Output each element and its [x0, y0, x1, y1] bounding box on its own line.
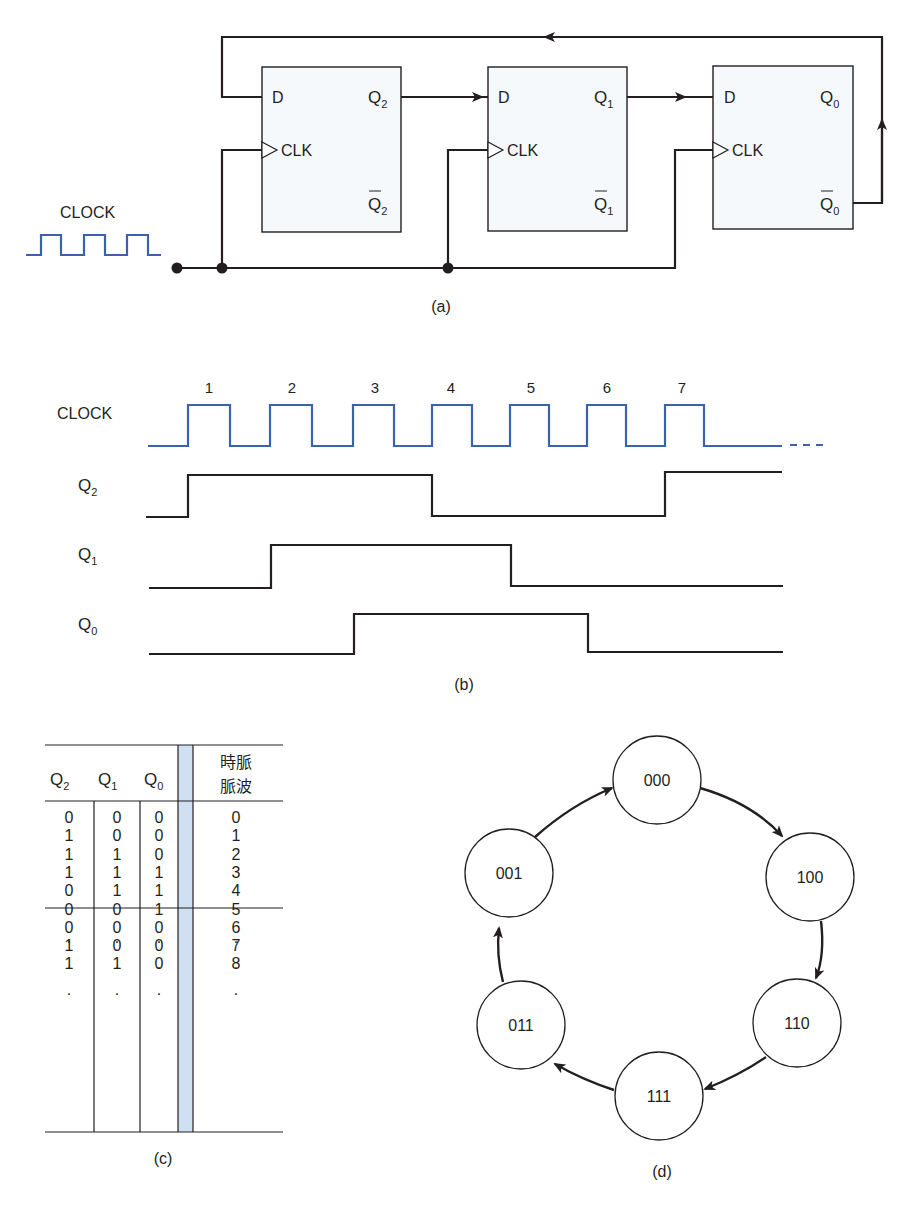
waveform-q2 [146, 472, 782, 517]
table-row: .... [67, 955, 238, 972]
circuit-diagram: CLOCK D CLK Q2 Q2 D [26, 37, 882, 315]
clk-wire-ff1 [448, 150, 488, 268]
table-row: 0015 [65, 901, 241, 918]
pulse-number: 2 [288, 379, 296, 396]
header-q1: Q1 [98, 770, 117, 792]
table-cell: 0 [65, 809, 74, 826]
clk-pin-label: CLK [732, 142, 763, 159]
table-cell: . [67, 929, 71, 946]
table-cell: 2 [232, 846, 241, 863]
pulse-number: 4 [447, 379, 455, 396]
state-label: 110 [784, 1015, 810, 1032]
header-pulse-line2: 脈波 [220, 778, 252, 795]
table-cell: 1 [232, 827, 241, 844]
state-label: 011 [508, 1017, 534, 1034]
table-cell: 0 [65, 882, 74, 899]
table-cell: . [234, 929, 238, 946]
signal-label-clock: CLOCK [57, 405, 112, 422]
table-cell: 0 [113, 901, 122, 918]
state-node-001: 001 [465, 829, 553, 917]
table-cell: 1 [155, 901, 164, 918]
table-cell: . [157, 929, 161, 946]
figure-canvas: CLOCK D CLK Q2 Q2 D [0, 0, 906, 1210]
clock-label: CLOCK [60, 204, 115, 221]
table-cell: 0 [232, 809, 241, 826]
transition-arrow-icon [498, 928, 503, 982]
table-cell: . [115, 955, 119, 972]
pulse-numbers: 1 2 3 4 5 6 7 [205, 379, 686, 396]
table-row: 1108 [65, 955, 241, 972]
table-cell: 4 [232, 882, 241, 899]
table-row: 0114 [65, 882, 241, 899]
state-node-000: 000 [613, 736, 701, 824]
header-q0: Q0 [144, 770, 163, 792]
signal-label-q0: Q0 [78, 615, 97, 637]
pulse-number: 7 [678, 379, 686, 396]
flipflop-q0: D CLK Q0 Q0 [713, 66, 853, 229]
clock-input-node [172, 263, 183, 274]
transition-arrow-icon [555, 1064, 614, 1090]
table-row: .... [67, 929, 238, 946]
table-cell: . [234, 981, 238, 998]
header-pulse-line1: 時脈 [220, 754, 252, 771]
table-cell: . [115, 981, 119, 998]
pulse-number: 5 [527, 379, 535, 396]
d-pin-label: D [498, 89, 510, 106]
table-cell: 1 [65, 827, 74, 844]
table-cell: . [67, 955, 71, 972]
pulse-number: 6 [603, 379, 611, 396]
state-diagram: 000 100 110 111 011 001 (d) [465, 736, 854, 1180]
clk-wire-ff2 [222, 150, 262, 268]
table-cell: 1 [155, 882, 164, 899]
table-cell: . [67, 981, 71, 998]
table-cell: 1 [155, 864, 164, 881]
table-cell: 3 [232, 864, 241, 881]
waveform-q1 [149, 545, 783, 588]
clock-waveform-icon [26, 235, 161, 255]
pulse-number: 3 [371, 379, 379, 396]
table-row: 1102 [65, 846, 241, 863]
flipflop-q2: D CLK Q2 Q2 [262, 67, 401, 232]
caption-a: (a) [431, 298, 451, 315]
clk-pin-label: CLK [507, 142, 538, 159]
caption-c: (c) [154, 1150, 173, 1167]
timing-diagram: CLOCK Q2 Q1 Q0 1 2 3 4 5 6 7 (b) [57, 379, 828, 693]
junction-node [443, 263, 454, 274]
flipflop-q1: D CLK Q1 Q1 [488, 67, 627, 231]
state-node-100: 100 [766, 833, 854, 921]
junction-node [217, 263, 228, 274]
caption-d: (d) [652, 1163, 672, 1180]
state-node-111: 111 [615, 1052, 703, 1140]
state-label: 001 [496, 865, 523, 882]
table-cell: 0 [155, 809, 164, 826]
table-cell: 1 [113, 864, 122, 881]
state-node-011: 011 [477, 981, 565, 1069]
caption-b: (b) [454, 676, 474, 693]
table-cell: 1 [113, 882, 122, 899]
table-row: 1007 [65, 937, 241, 954]
table-cell: . [234, 955, 238, 972]
pulse-number: 1 [205, 379, 213, 396]
header-q2: Q2 [50, 770, 69, 792]
table-row: 0000 [65, 809, 241, 826]
transition-arrow-icon [816, 921, 822, 978]
state-label: 100 [797, 869, 824, 886]
table-cell: 0 [155, 827, 164, 844]
waveform-q0 [149, 614, 783, 654]
table-row: 0006 [65, 919, 241, 936]
table-cell: . [157, 955, 161, 972]
signal-label-q2: Q2 [78, 476, 97, 498]
transition-arrow-icon [705, 1057, 766, 1089]
table-cell: 0 [65, 901, 74, 918]
d-pin-label: D [724, 89, 736, 106]
separator-band [178, 745, 193, 1132]
table-cell: 0 [113, 827, 122, 844]
table-cell: 1 [65, 846, 74, 863]
transition-arrow-icon [700, 788, 782, 836]
state-node-110: 110 [753, 979, 841, 1067]
table-cell: 1 [113, 846, 122, 863]
clock-waveform [148, 405, 782, 446]
table-row: 1001 [65, 827, 241, 844]
clock-bus-wire [177, 150, 713, 268]
table-body: 000010011102111301140015000610071108....… [65, 809, 241, 998]
